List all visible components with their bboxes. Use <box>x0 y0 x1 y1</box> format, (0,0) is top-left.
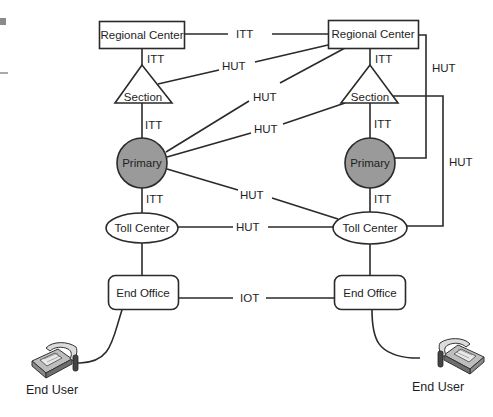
node-label: Section <box>124 91 162 103</box>
node-label: Toll Center <box>343 222 398 234</box>
end-user-label: End User <box>26 383 78 397</box>
end-user-left: End User <box>26 343 78 397</box>
toll-center-left: Toll Center <box>106 213 178 243</box>
page-marker <box>0 18 6 25</box>
telephone-icon <box>32 343 78 378</box>
node-label: Primary <box>350 157 390 169</box>
node-label: Regional Center <box>331 28 414 40</box>
telephone-icon <box>438 339 484 374</box>
node-label: End Office <box>116 287 170 299</box>
edge-primary-left-toll-right <box>167 169 238 190</box>
edge-label-hut: HUT <box>432 62 456 74</box>
edge-label-itt: ITT <box>374 193 391 205</box>
edge-section-left-rc-right <box>158 70 219 84</box>
edge-label-hut: HUT <box>236 221 260 233</box>
node-label: End Office <box>343 287 397 299</box>
section-right: Section <box>341 65 398 103</box>
edge-label-hut: HUT <box>254 123 278 135</box>
edge-section-left-rc-right <box>255 45 328 62</box>
edge-primary-left-section-right <box>167 133 251 157</box>
toll-center-right: Toll Center <box>333 212 407 244</box>
edge-primary-left-rc-right <box>166 101 249 152</box>
edge-label-hut: HUT <box>449 156 473 168</box>
end-user-label: End User <box>412 380 464 394</box>
edge-label-hut: HUT <box>253 91 277 103</box>
regional-center-left: Regional Center <box>100 22 185 49</box>
cord-left <box>74 310 122 363</box>
end-office-right: End Office <box>335 276 406 310</box>
edge-primary-left-section-right <box>283 103 345 124</box>
end-user-right: End User <box>412 339 484 394</box>
node-label: Toll Center <box>115 222 170 234</box>
cord-right <box>372 310 420 358</box>
network-hierarchy-diagram: ITT ITT HUT ITT HUT HUT HUT ITT ITT HUT … <box>0 0 493 417</box>
edge-label-itt: ITT <box>145 119 162 131</box>
node-label: Regional Center <box>100 29 183 41</box>
edge-label-itt: ITT <box>374 118 391 130</box>
node-label: Primary <box>122 157 162 169</box>
edge-section-right-toll-right <box>392 96 443 226</box>
regional-center-right: Regional Center <box>329 21 419 49</box>
primary-left: Primary <box>117 138 167 188</box>
edge-label-itt: ITT <box>147 53 164 65</box>
edge-label-iot: IOT <box>240 292 259 304</box>
edge-label-itt: ITT <box>146 193 163 205</box>
edge-label-hut: HUT <box>240 189 264 201</box>
edge-label-itt: ITT <box>375 53 392 65</box>
edge-labels: ITT ITT HUT ITT HUT HUT HUT ITT ITT HUT … <box>145 28 473 304</box>
node-label: Section <box>351 91 389 103</box>
primary-right: Primary <box>345 138 395 188</box>
section-left: Section <box>115 65 172 103</box>
end-office-left: End Office <box>109 276 179 310</box>
edge-primary-left-toll-right <box>272 198 338 219</box>
edge-label-itt: ITT <box>236 28 253 40</box>
edge-label-hut: HUT <box>222 60 246 72</box>
